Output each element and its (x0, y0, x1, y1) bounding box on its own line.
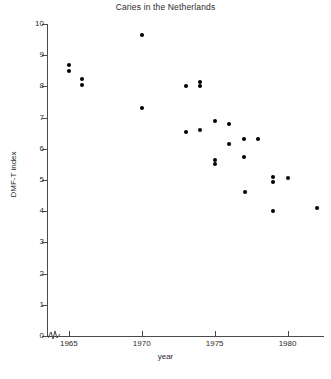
data-point (227, 142, 231, 146)
data-point (80, 77, 84, 81)
data-point (213, 119, 217, 123)
y-tick-label: 5 (22, 175, 44, 184)
x-tick-mark (215, 331, 216, 336)
data-point (213, 162, 217, 166)
y-tick-label: 8 (22, 81, 44, 90)
scatter-plot: Caries in the Netherlands 012345678910 1… (0, 0, 331, 379)
data-point (242, 155, 246, 159)
data-point (213, 158, 217, 162)
y-axis-title: DMF-T index (9, 130, 18, 220)
data-point (198, 80, 202, 84)
data-point (140, 106, 144, 110)
data-point (184, 130, 188, 134)
data-point (242, 137, 246, 141)
y-tick-label: 2 (22, 269, 44, 278)
x-tick-mark (142, 331, 143, 336)
data-point (140, 33, 144, 37)
y-tick-label: 7 (22, 113, 44, 122)
chart-title: Caries in the Netherlands (0, 2, 331, 12)
x-axis-title: year (0, 352, 331, 361)
data-point (184, 84, 188, 88)
x-tick-mark (288, 331, 289, 336)
x-tick-label: 1965 (49, 339, 89, 348)
y-tick-label: 10 (22, 19, 44, 28)
data-point (243, 190, 247, 194)
y-tick-label: 0 (22, 331, 44, 340)
data-point (227, 122, 231, 126)
y-tick-label: 6 (22, 144, 44, 153)
x-tick-label: 1980 (268, 339, 308, 348)
data-point (286, 176, 290, 180)
data-point (271, 180, 275, 184)
data-point (80, 83, 84, 87)
data-point (271, 209, 275, 213)
cropped-caption (0, 371, 331, 379)
y-tick-label: 1 (22, 300, 44, 309)
data-point (256, 137, 260, 141)
data-point (67, 69, 71, 73)
x-tick-label: 1970 (122, 339, 162, 348)
y-tick-label: 4 (22, 206, 44, 215)
y-tick-label: 3 (22, 237, 44, 246)
data-point (198, 84, 202, 88)
data-point (67, 63, 71, 67)
data-point (271, 175, 275, 179)
data-point (315, 206, 319, 210)
y-tick-label: 9 (22, 50, 44, 59)
x-axis-line (47, 336, 324, 337)
y-axis-line (47, 24, 48, 336)
data-point (198, 128, 202, 132)
x-tick-mark (69, 331, 70, 336)
x-tick-label: 1975 (195, 339, 235, 348)
